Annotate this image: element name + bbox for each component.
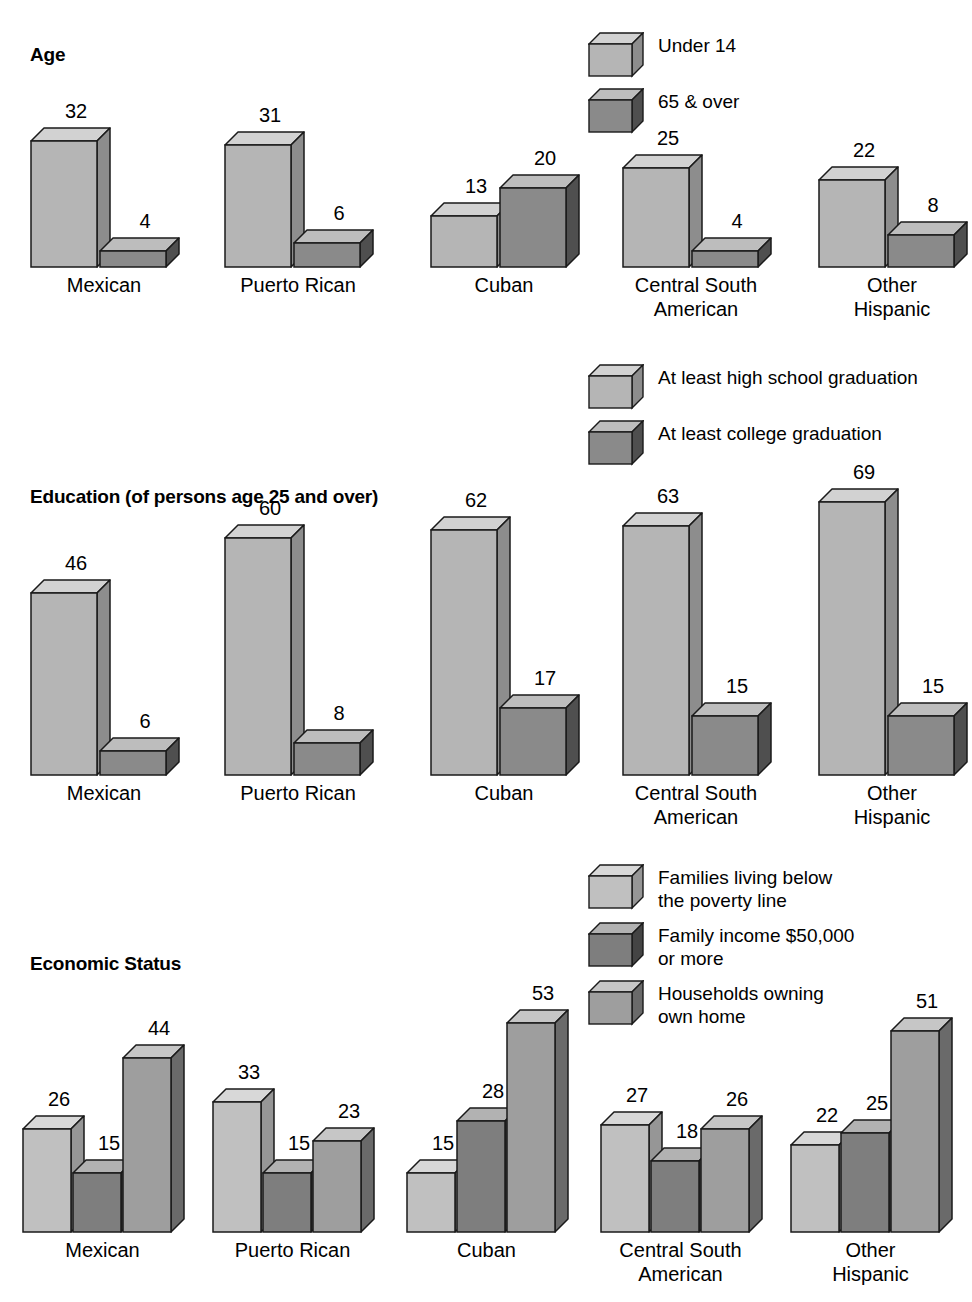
group-label: Other Hispanic — [760, 1238, 972, 1286]
bar-value-label: 31 — [231, 104, 310, 127]
bar-value-label: 33 — [219, 1061, 280, 1084]
group-label: Central South American — [570, 1238, 791, 1286]
group-label: Cuban — [400, 273, 608, 297]
plot-economic: 26 15 44Mexican 33 15 23Puerto Rican 15 … — [0, 840, 972, 1302]
bar — [122, 1044, 185, 1233]
plot-age: 32 4Mexican 31 6Puerto Rican 13 20Cuban … — [0, 0, 972, 340]
bar — [293, 729, 374, 776]
bar — [499, 174, 580, 268]
bar-value-label: 60 — [231, 497, 310, 520]
bar — [499, 694, 580, 776]
section-education: Education (of persons age 25 and over) A… — [0, 340, 972, 840]
bar — [887, 221, 968, 268]
bar — [887, 702, 968, 776]
bar-value-label: 44 — [129, 1017, 190, 1040]
bar — [312, 1127, 375, 1233]
bar-value-label: 62 — [437, 489, 516, 512]
bar — [890, 1017, 953, 1233]
bar — [99, 737, 180, 776]
group-label: Central South American — [592, 781, 800, 829]
group-label: Cuban — [400, 781, 608, 805]
bar — [691, 237, 772, 268]
bar-value-label: 4 — [106, 210, 185, 233]
bar-value-label: 32 — [37, 100, 116, 123]
bar-value-label: 23 — [319, 1100, 380, 1123]
group-label: Central South American — [592, 273, 800, 321]
bar-value-label: 17 — [506, 667, 585, 690]
bar-value-label: 25 — [629, 127, 708, 150]
bar-value-label: 69 — [825, 461, 904, 484]
bar-value-label: 8 — [894, 194, 972, 217]
bar-value-label: 22 — [825, 139, 904, 162]
bar — [691, 702, 772, 776]
section-age: Age Under 14 — [0, 0, 972, 340]
group-label: Cuban — [376, 1238, 597, 1262]
group-label: Mexican — [0, 273, 208, 297]
group-label: Puerto Rican — [194, 781, 402, 805]
bar-value-label: 15 — [894, 675, 972, 698]
bar-value-label: 15 — [698, 675, 777, 698]
bar — [506, 1009, 569, 1233]
group-label: Other Hispanic — [788, 781, 972, 829]
group-label: Puerto Rican — [194, 273, 402, 297]
bar-value-label: 53 — [513, 982, 574, 1005]
bar-value-label: 46 — [37, 552, 116, 575]
bar-value-label: 26 — [29, 1088, 90, 1111]
bar-value-label: 20 — [506, 147, 585, 170]
bar-value-label: 26 — [707, 1088, 768, 1111]
bar — [700, 1115, 763, 1233]
bar — [99, 237, 180, 268]
section-economic: Economic Status Families living below th… — [0, 840, 972, 1302]
bar-value-label: 51 — [897, 990, 958, 1013]
bar-value-label: 63 — [629, 485, 708, 508]
group-label: Other Hispanic — [788, 273, 972, 321]
chart-page: Age Under 14 — [0, 0, 972, 1302]
bar-value-label: 27 — [607, 1084, 668, 1107]
bar-value-label: 4 — [698, 210, 777, 233]
group-label: Puerto Rican — [182, 1238, 403, 1262]
bar-value-label: 6 — [300, 202, 379, 225]
group-label: Mexican — [0, 781, 208, 805]
plot-education: 46 6Mexican 60 8Puerto Rican 62 17Cuban … — [0, 340, 972, 840]
bar-value-label: 8 — [300, 702, 379, 725]
bar-value-label: 6 — [106, 710, 185, 733]
bar — [293, 229, 374, 268]
